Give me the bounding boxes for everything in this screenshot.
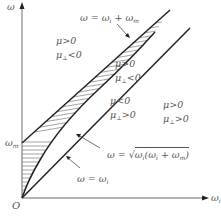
sqrt-curve-equation: ω = √ωi(ωi + ωm) [107,150,189,161]
y-axis-label: ω [7,2,15,12]
y-axis-arrow-icon [20,2,25,9]
omega-m-tick-label: ωm [5,138,18,149]
origin-label: O [12,201,20,211]
x-axis-label: ωi [211,193,221,204]
region-band-lower: μ<0 μ⊥>0 [110,94,136,125]
diagonal-equation: ω = ωi [77,174,108,185]
sqrt-curve-pointer [78,135,100,148]
region-right: μ>0 μ⊥>0 [163,98,189,129]
region-band-upper: μ>0 μ⊥<0 [115,57,141,88]
diagonal-pointer [68,158,80,168]
upper-line-pointer [117,24,128,36]
region-top-left: μ>0 μ⊥<0 [56,34,82,65]
pointer-arrowhead-icon [66,156,71,160]
upper-line-equation: ω = ωi + ωm [80,13,139,24]
x-axis-arrow-icon [202,196,209,201]
